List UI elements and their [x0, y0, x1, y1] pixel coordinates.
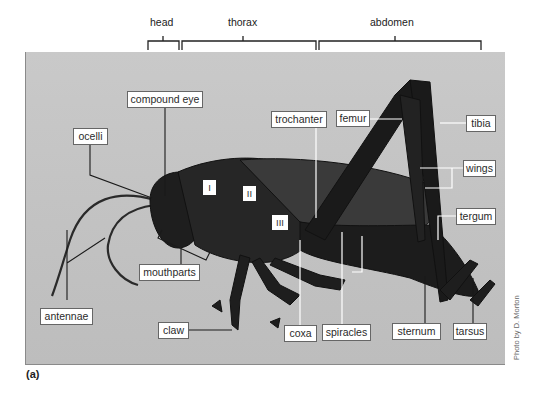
label-spiracles: spiracles — [322, 324, 371, 341]
label-compound-eye: compound eye — [127, 91, 203, 108]
label-tergum: tergum — [456, 208, 496, 225]
thorax-segment-II: II — [243, 186, 256, 201]
label-coxa: coxa — [284, 325, 317, 342]
label-sternum: sternum — [392, 323, 441, 340]
label-femur: femur — [336, 110, 370, 127]
thorax-segment-III: III — [272, 215, 288, 230]
region-brackets — [148, 36, 481, 50]
thorax-segment-I: I — [203, 180, 216, 195]
label-tarsus: tarsus — [453, 323, 487, 340]
label-trochanter: trochanter — [271, 111, 327, 128]
photo-credit: Photo by D. Morton — [512, 295, 521, 360]
label-ocelli: ocelli — [73, 128, 108, 145]
label-wings: wings — [463, 160, 496, 177]
figure-caption: (a) — [26, 368, 39, 380]
label-claw: claw — [158, 322, 189, 339]
label-tibia: tibia — [466, 115, 496, 132]
label-antennae: antennae — [40, 308, 93, 325]
label-mouthparts: mouthparts — [139, 264, 200, 281]
